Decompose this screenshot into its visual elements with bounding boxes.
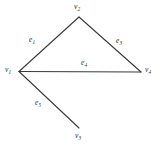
vertex-label-v4-subscript: 4 <box>149 69 152 75</box>
vertex-label-v1: v1 <box>5 66 11 74</box>
graph-edges-canvas <box>0 0 161 149</box>
edge-label-e1: e1 <box>29 36 35 44</box>
edge-label-e3: e3 <box>116 37 122 45</box>
edge-e3-line <box>79 17 141 72</box>
vertex-label-v2: v2 <box>74 3 80 11</box>
edge-label-e1-base: e <box>29 35 32 44</box>
edge-label-e1-subscript: 1 <box>33 39 36 45</box>
vertex-label-v3: v3 <box>75 132 81 140</box>
vertex-label-v4: v4 <box>145 66 151 74</box>
edge-label-e3-subscript: 3 <box>120 40 123 46</box>
edge-e4-line <box>19 72 141 73</box>
edge-label-e5: e5 <box>35 99 41 107</box>
edge-label-e4-base: e <box>81 58 84 67</box>
vertex-label-v1-subscript: 1 <box>9 69 12 75</box>
vertex-label-v2-subscript: 2 <box>78 6 81 12</box>
graph-diagram: v2 v1 v4 v3 e1 e3 e4 e5 <box>0 0 161 149</box>
vertex-label-v4-base: v <box>145 65 148 74</box>
edge-label-e4: e4 <box>81 59 87 67</box>
vertex-label-v2-base: v <box>74 2 77 11</box>
edge-label-e5-subscript: 5 <box>39 102 42 108</box>
edge-label-e4-subscript: 4 <box>85 62 88 68</box>
vertex-label-v3-subscript: 3 <box>79 135 82 141</box>
edge-label-e3-base: e <box>116 36 119 45</box>
edge-e5-line <box>19 72 79 129</box>
edge-e1-line <box>19 17 79 72</box>
edge-label-e5-base: e <box>35 98 38 107</box>
vertex-label-v1-base: v <box>5 65 8 74</box>
vertex-label-v3-base: v <box>75 131 78 140</box>
